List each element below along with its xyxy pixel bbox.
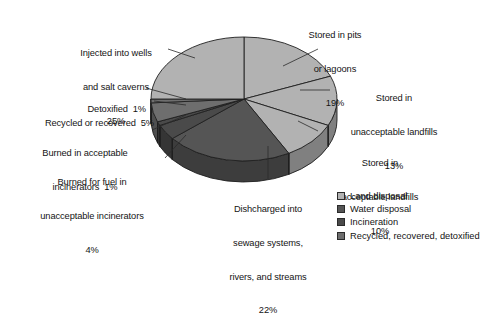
- callout-line: rivers, and streams: [198, 272, 338, 283]
- legend-swatch: [337, 205, 345, 213]
- callout-detoxified: Detoxified 1%: [4, 82, 146, 138]
- legend-label: Incineration: [350, 217, 398, 227]
- legend-swatch: [337, 192, 345, 200]
- callout-line: Stored in pits: [290, 30, 380, 41]
- legend-label: Water disposal: [350, 204, 411, 214]
- callout-value: 22%: [198, 305, 338, 316]
- callout-line: Stored in: [332, 93, 456, 104]
- chart-legend: Land disposalWater disposalIncinerationR…: [337, 191, 480, 241]
- legend-item: Recycled, recovered, detoxified: [337, 231, 480, 241]
- callout-line: Injected into wells: [56, 48, 176, 59]
- callout-value: incinerators 1%: [18, 182, 152, 193]
- callout-value: 4%: [22, 245, 162, 256]
- callout-dishcharged-into-sewage: Dishcharged into sewage systems, rivers,…: [198, 182, 338, 317]
- callout-value: Detoxified 1%: [4, 104, 146, 115]
- legend-label: Recycled, recovered, detoxified: [350, 231, 480, 241]
- legend-item: Water disposal: [337, 204, 480, 214]
- legend-item: Land disposal: [337, 191, 480, 201]
- legend-item: Incineration: [337, 217, 480, 227]
- callout-line: sewage systems,: [198, 238, 338, 249]
- legend-swatch: [337, 218, 345, 226]
- legend-label: Land disposal: [350, 191, 407, 201]
- callout-line: Stored in: [320, 158, 440, 169]
- legend-swatch: [337, 232, 345, 240]
- callout-line: Dishcharged into: [198, 204, 338, 215]
